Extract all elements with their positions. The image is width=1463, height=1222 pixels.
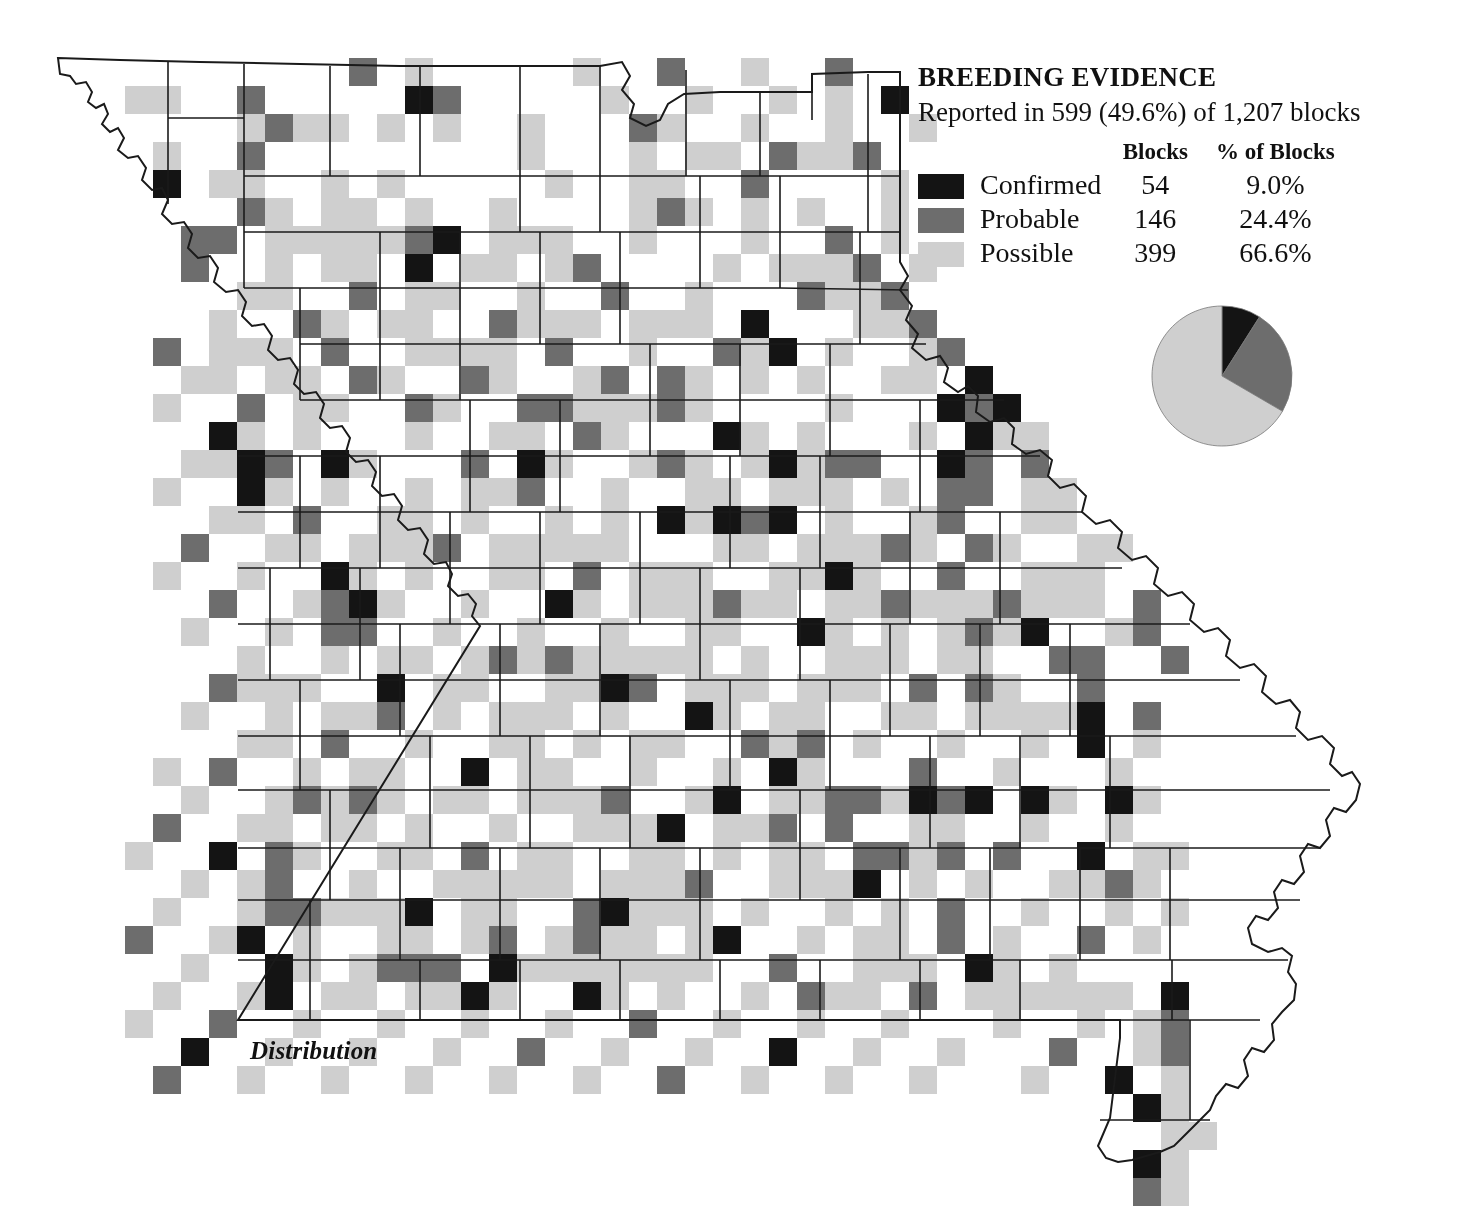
legend-percent-probable: 24.4% (1209, 202, 1341, 236)
pie-chart-svg (1151, 305, 1293, 447)
legend-swatch-cell (918, 202, 980, 236)
legend-header-category (980, 139, 1101, 168)
legend-header-row: Blocks % of Blocks (918, 139, 1341, 168)
legend-blocks-probable: 146 (1101, 202, 1209, 236)
legend-subtitle: Reported in 599 (49.6%) of 1,207 blocks (918, 96, 1418, 130)
possible-swatch-icon (918, 242, 964, 267)
legend-header-percent: % of Blocks (1209, 139, 1341, 168)
legend-label-confirmed: Confirmed (980, 168, 1101, 202)
legend-row-probable: Probable 146 24.4% (918, 202, 1341, 236)
legend-label-probable: Probable (980, 202, 1101, 236)
figure-caption: Distribution (250, 1037, 377, 1065)
breeding-evidence-pie-chart (1151, 305, 1293, 447)
legend-header-blocks: Blocks (1101, 139, 1209, 168)
legend-row-possible: Possible 399 66.6% (918, 236, 1341, 270)
legend-table: Blocks % of Blocks Confirmed 54 9.0% (918, 139, 1341, 270)
legend-blocks-possible: 399 (1101, 236, 1209, 270)
legend-label-possible: Possible (980, 236, 1101, 270)
legend-percent-confirmed: 9.0% (1209, 168, 1341, 202)
legend-swatch-cell (918, 168, 980, 202)
breeding-evidence-legend: BREEDING EVIDENCE Reported in 599 (49.6%… (918, 62, 1418, 270)
atlas-distribution-page: BREEDING EVIDENCE Reported in 599 (49.6%… (0, 0, 1463, 1222)
probable-swatch-icon (918, 208, 964, 233)
legend-swatch-cell (918, 236, 980, 270)
confirmed-swatch-icon (918, 174, 964, 199)
legend-percent-possible: 66.6% (1209, 236, 1341, 270)
legend-header-swatch (918, 139, 980, 168)
legend-blocks-confirmed: 54 (1101, 168, 1209, 202)
county-line (780, 288, 908, 290)
legend-title: BREEDING EVIDENCE (918, 62, 1418, 94)
legend-row-confirmed: Confirmed 54 9.0% (918, 168, 1341, 202)
